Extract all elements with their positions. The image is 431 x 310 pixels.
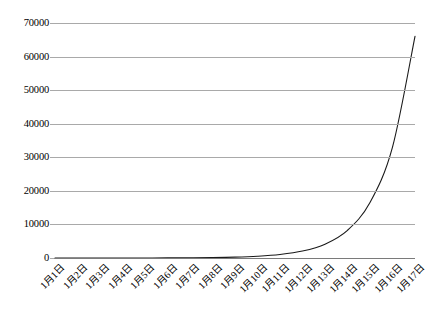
gridline-70000 bbox=[55, 23, 415, 24]
gridline-30000 bbox=[55, 157, 415, 158]
y-axis-tick-label: 0 bbox=[1, 253, 49, 264]
y-axis-tick-label: 60000 bbox=[1, 52, 49, 63]
gridline-60000 bbox=[55, 57, 415, 58]
y-axis-tick-label: 40000 bbox=[1, 119, 49, 130]
gridline-50000 bbox=[55, 90, 415, 91]
gridline-10000 bbox=[55, 224, 415, 225]
y-axis-tick-label: 30000 bbox=[1, 152, 49, 163]
chart-container: 010000200003000040000500006000070000 1月1… bbox=[0, 0, 431, 310]
y-axis-tick-label: 50000 bbox=[1, 85, 49, 96]
y-axis-tick-label: 20000 bbox=[1, 186, 49, 197]
gridline-40000 bbox=[55, 124, 415, 125]
gridline-20000 bbox=[55, 191, 415, 192]
series-line-svg bbox=[55, 23, 415, 258]
y-axis-tick-label: 70000 bbox=[1, 18, 49, 29]
plot-area bbox=[55, 23, 415, 258]
y-axis: 010000200003000040000500006000070000 bbox=[0, 23, 49, 258]
y-axis-tick-label: 10000 bbox=[1, 219, 49, 230]
x-axis: 1月1日1月2日1月3日1月4日1月5日1月6日1月7日1月8日1月9日1月10… bbox=[55, 258, 415, 310]
